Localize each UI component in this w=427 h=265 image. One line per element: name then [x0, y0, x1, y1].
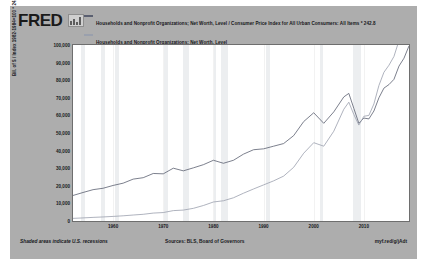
y-tick-label: 60,000 [56, 113, 70, 118]
y-tick-label: 80,000 [56, 78, 70, 83]
x-tick-label: 2000 [309, 224, 319, 229]
y-tick-label: 100,000 [53, 43, 70, 48]
short-url[interactable]: myf.red/g/jAdt [375, 239, 407, 244]
chart-footer: Shaded areas indicate U.S. recessions So… [10, 237, 417, 257]
recessions-note: Shaded areas indicate U.S. recessions [20, 239, 108, 244]
x-tick-label: 1990 [258, 224, 268, 229]
line-swatch-icon [84, 34, 93, 36]
y-tick-label: 70,000 [56, 95, 70, 100]
fred-logo: FRED [18, 12, 62, 29]
y-tick-label: 50,000 [56, 131, 70, 136]
legend-item-0: Households and Nonprofit Organizations; … [84, 11, 406, 29]
chart-header: FRED Households and Nonprofit Organizati… [10, 6, 417, 42]
y-axis-ticks: 100,00090,00080,00070,00060,00050,00040,… [26, 42, 70, 224]
series-lines [73, 45, 409, 221]
y-tick-label: 40,000 [56, 148, 70, 153]
y-tick-label: 0 [67, 219, 70, 224]
plot-region: Bil. of $ / Index 1982-1984=100 * 242.8 … [10, 42, 417, 232]
series-line-0 [73, 46, 409, 196]
sources-note: Sources: BLS, Board of Governors [165, 239, 244, 244]
y-tick-label: 30,000 [56, 166, 70, 171]
x-tick-label: 1970 [158, 224, 168, 229]
plot-area [72, 44, 410, 222]
x-axis-ticks: 196019701980199020002010 [72, 224, 410, 234]
line-swatch-icon [84, 15, 93, 17]
x-tick-label: 2010 [359, 224, 369, 229]
legend-label: Households and Nonprofit Organizations; … [96, 21, 376, 26]
bar-chart-logo-icon [68, 14, 84, 27]
y-tick-label: 90,000 [56, 60, 70, 65]
y-tick-label: 10,000 [56, 201, 70, 206]
x-tick-label: 1960 [108, 224, 118, 229]
y-tick-label: 20,000 [56, 183, 70, 188]
x-tick-label: 1980 [208, 224, 218, 229]
y-axis-title: Bil. of $ / Index 1982-1984=100 * 242.8 … [12, 0, 17, 76]
fred-chart-card: FRED Households and Nonprofit Organizati… [10, 6, 417, 259]
series-line-1 [73, 45, 409, 218]
